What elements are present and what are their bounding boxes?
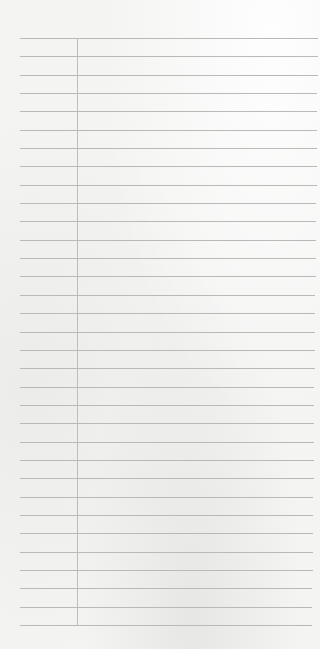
rule-line bbox=[20, 130, 317, 131]
rule-line bbox=[20, 460, 314, 461]
rule-line bbox=[20, 240, 316, 241]
rule-line bbox=[20, 607, 312, 608]
rule-line bbox=[20, 75, 318, 76]
rule-line bbox=[20, 56, 318, 57]
rule-line bbox=[20, 38, 318, 39]
rule-line bbox=[20, 221, 316, 222]
rule-line bbox=[20, 276, 316, 277]
rule-line bbox=[20, 515, 313, 516]
rule-line bbox=[20, 313, 315, 314]
rule-line bbox=[20, 332, 315, 333]
rule-line bbox=[20, 111, 317, 112]
rule-line bbox=[20, 93, 317, 94]
rule-line bbox=[20, 258, 316, 259]
rule-line bbox=[20, 423, 314, 424]
rule-line bbox=[20, 148, 317, 149]
rule-line bbox=[20, 185, 317, 186]
rule-line bbox=[20, 625, 312, 626]
rule-line bbox=[20, 295, 315, 296]
rule-line bbox=[20, 478, 314, 479]
rule-line bbox=[20, 203, 316, 204]
rule-line bbox=[20, 497, 313, 498]
rule-line bbox=[20, 442, 314, 443]
rule-line bbox=[20, 570, 313, 571]
rule-line bbox=[20, 387, 314, 388]
rule-line bbox=[20, 552, 313, 553]
rule-line bbox=[20, 166, 317, 167]
rule-line bbox=[20, 368, 315, 369]
rule-line bbox=[20, 350, 315, 351]
rule-line bbox=[20, 405, 314, 406]
notepad-paper bbox=[0, 0, 320, 649]
rule-line bbox=[20, 533, 313, 534]
margin-line bbox=[77, 38, 78, 626]
rule-line bbox=[20, 588, 312, 589]
